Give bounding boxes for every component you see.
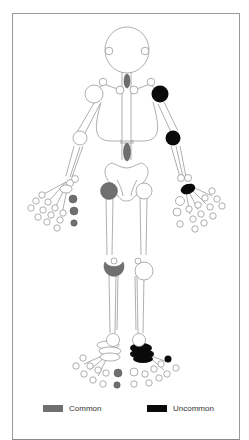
legend-item-uncommon: Uncommon <box>147 404 214 413</box>
right-hand-d5-mcp-common <box>69 195 77 203</box>
common-swatch <box>43 405 63 412</box>
left-wrist-uncommon <box>179 182 197 197</box>
left-shoulder-uncommon <box>152 86 169 103</box>
legend-label-uncommon: Uncommon <box>173 404 214 413</box>
common-joints <box>69 74 131 388</box>
cervical-spine-common <box>124 74 130 88</box>
left-foot-d5-mtp-uncommon <box>165 356 172 363</box>
unaffected-joints <box>28 47 225 387</box>
uncommon-joints <box>152 86 197 363</box>
uncommon-swatch <box>147 405 167 412</box>
right-foot-d1-ip-common <box>114 382 120 388</box>
legend-item-common: Common <box>43 404 101 413</box>
right-hand-d5-dip-common <box>71 220 77 226</box>
legend-label-common: Common <box>69 404 101 413</box>
right-hip-common <box>101 183 118 200</box>
left-elbow-uncommon <box>166 131 181 146</box>
lumbar-spine-common <box>124 143 131 161</box>
right-hand-d5-pip-common <box>70 207 78 215</box>
right-foot-d1-mtp-common <box>114 369 122 377</box>
skeleton-diagram <box>0 0 249 440</box>
legend: Common Uncommon <box>0 404 249 418</box>
